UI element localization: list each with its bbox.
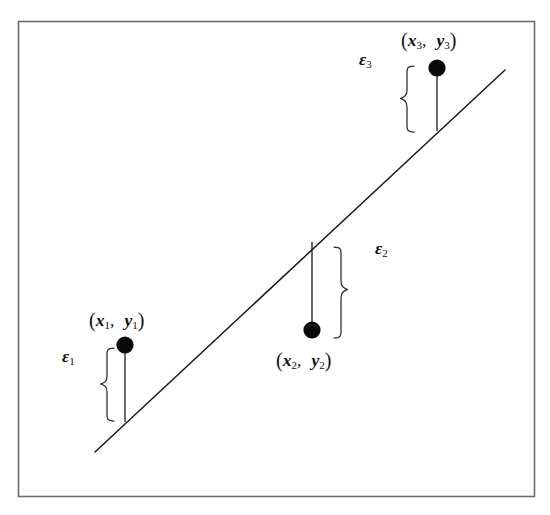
y-subscript: 1 bbox=[132, 319, 138, 331]
paren-open: ( bbox=[276, 349, 283, 371]
epsilon-subscript: 3 bbox=[366, 58, 372, 70]
x-subscript: 3 bbox=[416, 39, 422, 51]
data-point-1 bbox=[116, 336, 133, 353]
y-subscript: 3 bbox=[444, 39, 450, 51]
figure-border bbox=[19, 22, 535, 497]
x-subscript: 2 bbox=[291, 359, 297, 371]
data-point-3 bbox=[428, 59, 445, 76]
residual-label-3: ε3 bbox=[359, 51, 372, 69]
paren-open: ( bbox=[89, 309, 96, 331]
paren-close: ) bbox=[138, 309, 145, 331]
data-point-1-label: (x1,y1) bbox=[89, 310, 144, 330]
paren-close: ) bbox=[325, 349, 332, 371]
paren-open: ( bbox=[401, 29, 408, 51]
label-comma: , bbox=[422, 30, 430, 50]
residual-label-2: ε2 bbox=[375, 240, 388, 258]
data-point-3-label: (x3,y3) bbox=[401, 30, 456, 50]
figure-canvas: (x1,y1) (x2,y2) (x3,y3) ε1 ε2 ε3 bbox=[0, 0, 550, 515]
data-point-2 bbox=[303, 321, 320, 338]
y-subscript: 2 bbox=[319, 359, 325, 371]
label-comma: , bbox=[297, 350, 305, 370]
label-comma: , bbox=[110, 310, 118, 330]
data-point-2-label: (x2,y2) bbox=[276, 350, 331, 370]
x-subscript: 1 bbox=[104, 319, 110, 331]
epsilon-subscript: 2 bbox=[382, 247, 388, 259]
residual-label-1: ε1 bbox=[62, 348, 75, 366]
epsilon-subscript: 1 bbox=[69, 355, 75, 367]
paren-close: ) bbox=[450, 29, 457, 51]
regression-residual-diagram bbox=[0, 0, 550, 515]
